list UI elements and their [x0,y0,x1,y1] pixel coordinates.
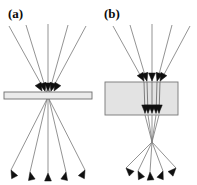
diverging-ray [126,142,152,168]
diverging-ray [152,142,176,168]
incoming-arrow-icon [149,73,156,81]
diverging-ray [138,142,152,171]
outgoing-arrow-icon [78,170,85,179]
outgoing-arrow-icon [11,170,18,179]
diverging-ray [150,142,152,172]
outgoing-arrow-icon [45,173,52,181]
figure-canvas [0,0,197,185]
diverging-arrow-icon [168,168,176,176]
diverging-arrow-icon [147,172,154,180]
incoming-arrow-icon [160,72,167,81]
panel-a [4,24,92,181]
diverging-arrow-icon [138,171,145,180]
diverging-arrow-icon [157,171,163,180]
panel-b [105,24,190,180]
incoming-ray [113,26,144,82]
diagram-layers [4,24,190,181]
panel-label-b: (b) [104,6,120,22]
thick-slab [105,82,178,115]
thin-slab [4,92,92,99]
outgoing-ray [49,99,66,172]
outgoing-ray [11,99,47,170]
diverging-arrow-icon [126,168,134,176]
outgoing-arrow-icon [28,172,35,181]
diverging-ray [152,142,163,171]
ray-optics-figure: (a) (b) [0,0,197,185]
panel-label-a: (a) [8,6,23,22]
outgoing-ray [49,99,85,170]
outgoing-arrow-icon [61,172,68,181]
outgoing-ray [30,99,47,172]
incoming-arrow-icon [54,82,61,91]
